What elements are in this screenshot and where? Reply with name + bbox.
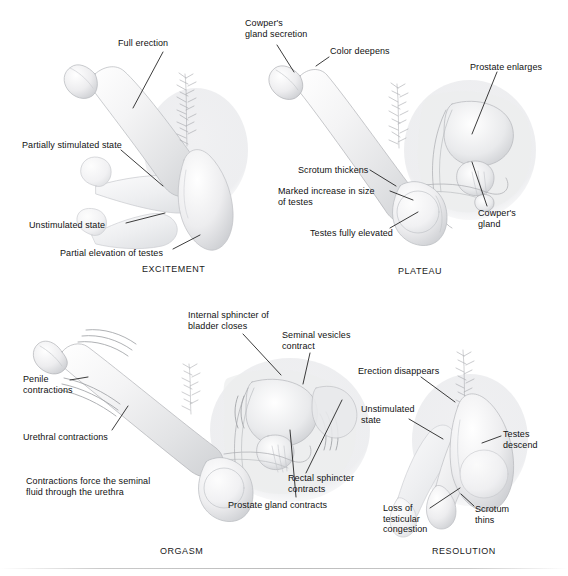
footer-rule xyxy=(0,568,568,569)
label-resolution-loss-of-congestion: Loss of testicular congestion xyxy=(383,503,427,535)
panel-caption-resolution: RESOLUTION xyxy=(432,546,496,556)
label-resolution-scrotum-thins: Scrotum thins xyxy=(475,504,509,525)
label-orgasm-penile-contractions: Penile contractions xyxy=(23,374,73,395)
label-excitement-unstimulated-state: Unstimulated state xyxy=(29,220,105,231)
label-plateau-prostate-enlarges: Prostate enlarges xyxy=(470,62,542,73)
label-plateau-marked-increase-testes: Marked increase in size of testes xyxy=(278,186,375,207)
label-plateau-color-deepens: Color deepens xyxy=(330,46,390,57)
panel-caption-excitement: EXCITEMENT xyxy=(142,264,205,274)
label-excitement-full-erection: Full erection xyxy=(118,38,168,49)
panel-caption-orgasm: ORGASM xyxy=(160,546,203,556)
label-orgasm-rectal-sphincter: Rectal sphincter contracts xyxy=(288,473,354,494)
label-plateau-testes-fully-elevated: Testes fully elevated xyxy=(310,228,393,239)
label-orgasm-internal-sphincter: Internal sphincter of bladder closes xyxy=(188,310,269,331)
leader-plateau-color-deepens xyxy=(316,57,329,66)
label-resolution-erection-disappears: Erection disappears xyxy=(358,366,439,377)
label-plateau-cowpers-gland-secretion: Cowper's gland secretion xyxy=(245,18,307,39)
label-resolution-testes-descend: Testes descend xyxy=(503,429,538,450)
label-orgasm-seminal-vesicles: Seminal vesicles contract xyxy=(282,330,350,351)
label-plateau-scrotum-thickens: Scrotum thickens xyxy=(298,165,368,176)
label-excitement-partial-elevation: Partial elevation of testes xyxy=(60,248,163,259)
label-excitement-partially-stimulated: Partially stimulated state xyxy=(22,140,122,151)
male-sexual-response-figure: Full erectionPartially stimulated stateU… xyxy=(0,0,568,576)
panel-caption-plateau: PLATEAU xyxy=(398,266,442,276)
label-plateau-cowpers-gland: Cowper's gland xyxy=(478,208,516,229)
label-resolution-unstimulated-state: Unstimulated state xyxy=(361,404,415,425)
label-orgasm-contractions-force: Contractions force the seminal fluid thr… xyxy=(26,476,150,497)
label-orgasm-prostate-gland-contracts: Prostate gland contracts xyxy=(228,500,327,511)
label-orgasm-urethral-contractions: Urethral contractions xyxy=(23,432,108,443)
